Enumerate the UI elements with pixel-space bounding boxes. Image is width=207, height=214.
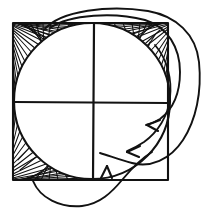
crosshair-horizontal-line [14,102,168,103]
inner-loop-curve [50,15,180,125]
hatched-corners-diagram: Square with inscribed circle and hatched… [0,0,207,214]
figure-canvas: Square with inscribed circle and hatched… [0,0,207,214]
crosshair-vertical-line [93,24,94,180]
arrow-bottom [101,166,112,178]
